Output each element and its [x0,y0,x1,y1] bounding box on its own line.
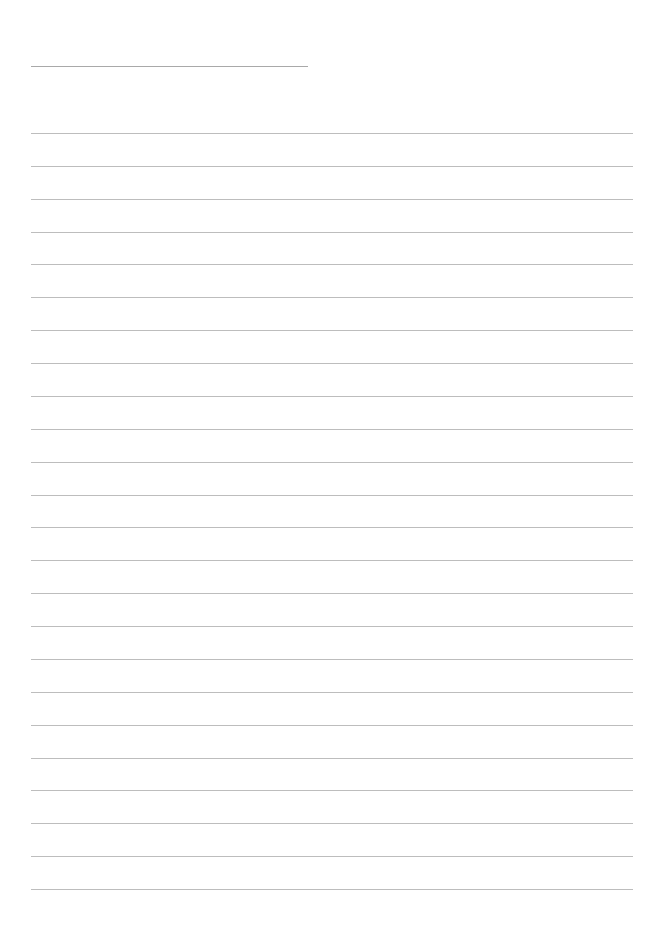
ruled-line-text [31,471,633,497]
ruled-line-text [31,832,633,858]
ruled-line-text [31,372,633,398]
ruled-line-text [31,602,633,628]
ruled-line-text [31,799,633,825]
ruled-line-text [31,208,633,234]
ruled-line-text [31,339,633,365]
ruled-line-text [31,175,633,201]
ruled-line-text [31,438,633,464]
ruled-line-text [31,109,633,135]
ruled-line-text [31,273,633,299]
ruled-line-text [31,405,633,431]
ruled-line-text [31,306,633,332]
ruled-line-text [31,503,633,529]
ruled-line-text [31,240,633,266]
ruled-line-text [31,569,633,595]
ruled-line-text [31,635,633,661]
ruled-line-text [31,734,633,760]
ruled-line-text [31,701,633,727]
ruled-line-text [31,668,633,694]
ruled-line-text [31,766,633,792]
ruled-line-text [31,865,633,891]
ruled-line-text [31,142,633,168]
ruled-paper-page [0,0,661,932]
ruled-line-text [31,536,633,562]
ruled-lines-area [31,0,633,932]
